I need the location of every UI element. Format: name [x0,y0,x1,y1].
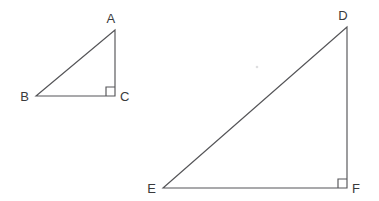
right-angle-marker-c [106,87,115,96]
right-angle-marker-f [338,179,347,188]
vertex-label-f: F [352,181,360,196]
geometry-diagram: A B C D E F [0,0,379,201]
vertex-label-c: C [120,89,130,104]
vertex-label-a: A [107,11,116,26]
vertex-label-d: D [338,8,348,23]
scan-speck [256,66,259,69]
vertex-label-e: E [147,181,156,196]
triangle-def-outline [163,27,347,188]
triangle-abc-outline [36,30,115,96]
triangle-abc: A B C [20,11,129,104]
vertex-label-b: B [20,89,29,104]
figure-canvas: A B C D E F [0,0,379,201]
triangle-def: D E F [147,8,360,196]
